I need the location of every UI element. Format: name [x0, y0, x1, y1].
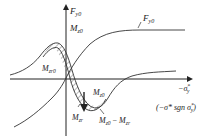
hatched-difference-region [43, 43, 106, 111]
label-mz0-minus-mzr: Mz0 − Mzr [98, 116, 131, 126]
aligning-moment-curve [10, 43, 176, 108]
label-mz0: Mz0 [92, 88, 105, 98]
label-mzr0: Mzr0 [41, 64, 56, 74]
y-axis-label-moment: Mz0 [69, 23, 83, 34]
curve-label-fy0: Fy0 [142, 13, 154, 24]
leader-line-fy0 [138, 22, 141, 28]
x-axis-label: −σ*y [178, 83, 190, 94]
y-axis-label-force: Fy0 [69, 6, 81, 17]
tire-characteristic-diagram: Fy0 Mz0 Fy0 Mzr0 Mz0 Mzr Mz0 − Mzr −σ*y … [0, 0, 209, 139]
label-mzr: Mzr [71, 113, 84, 123]
leader-line-diff [100, 109, 104, 114]
leader-line-mzr [78, 104, 80, 107]
x-axis-label-alt: (−σ* sgn σ*y) [156, 102, 196, 113]
